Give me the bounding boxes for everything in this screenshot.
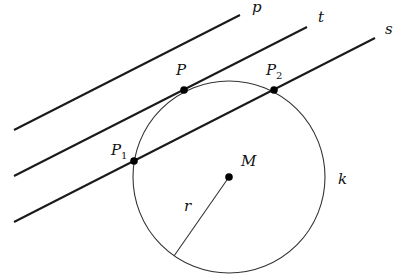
label-k: k [338, 170, 347, 188]
line-p [14, 15, 240, 130]
point-P [180, 86, 188, 94]
label-P: P [175, 61, 187, 79]
geometry-diagram: ptsMkrPP2P1 [0, 0, 406, 274]
point-P1 [130, 157, 138, 165]
label-P1: P1 [110, 141, 127, 161]
parallel-lines [14, 15, 375, 222]
label-s: s [385, 20, 393, 38]
label-r: r [184, 197, 192, 215]
line-t [14, 27, 307, 176]
radius-r [174, 177, 229, 256]
labels: ptsMkrPP2P1 [110, 0, 393, 215]
line-s [14, 38, 375, 222]
label-P2: P2 [265, 61, 282, 81]
label-M: M [240, 152, 257, 170]
point-P2 [270, 86, 278, 94]
label-p: p [252, 0, 262, 16]
point-M [225, 173, 233, 181]
label-t: t [318, 8, 325, 26]
